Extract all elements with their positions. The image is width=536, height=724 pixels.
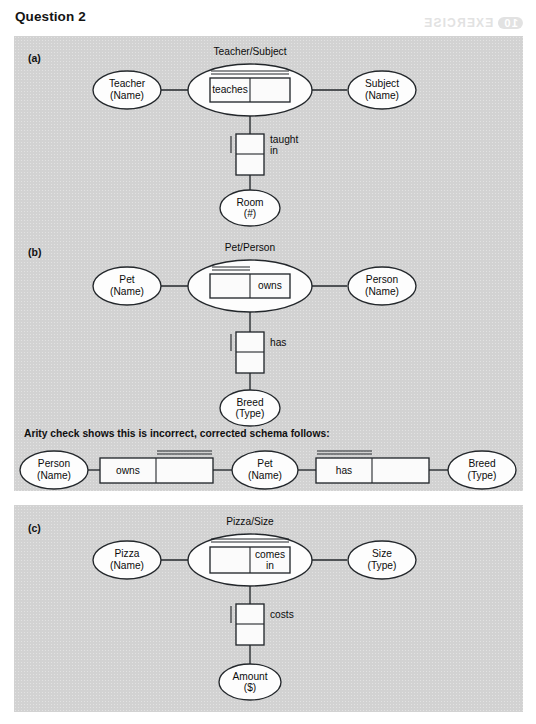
entity-name-b-left: Pet xyxy=(119,274,134,285)
corrected-entity3-name: Breed xyxy=(468,458,496,469)
relationship-label-c-line2: in xyxy=(266,560,274,571)
entity-attr-b-left: (Name) xyxy=(110,286,144,297)
entity-name-a-left: Teacher xyxy=(109,78,146,89)
entity-attr-b-bottom: (Type) xyxy=(236,408,265,419)
relationship-label-a: teaches xyxy=(212,84,248,95)
diagram-title-c: Pizza/Size xyxy=(226,516,274,527)
er-diagram-b: owns Pet/Person Pet (Name) Person (Name)… xyxy=(100,240,420,425)
corrected-entity3-attr: (Type) xyxy=(468,470,497,481)
corrected-entity2-attr: (Name) xyxy=(248,470,282,481)
entity-name-b-right: Person xyxy=(366,274,398,285)
bleed-through-badge: 10 xyxy=(498,17,523,29)
entity-name-a-right: Subject xyxy=(365,78,399,89)
section-label-b: (b) xyxy=(28,246,41,258)
bleed-through-label: EXERCISE xyxy=(423,16,493,30)
entity-attr-c-right: (Type) xyxy=(368,560,397,571)
entity-name-a-bottom: Room xyxy=(236,197,263,208)
diagram-title-b: Pet/Person xyxy=(225,242,275,253)
corrected-entity1-name: Person xyxy=(38,458,70,469)
relationship-label-b: owns xyxy=(258,280,282,291)
entity-name-c-bottom: Amount xyxy=(232,671,267,682)
page-root: Question 2 10EXERCISE Question 2 (a) (b)… xyxy=(0,0,536,724)
entity-attr-a-right: (Name) xyxy=(365,90,399,101)
page-title: Question 2 xyxy=(15,9,86,24)
entity-name-b-bottom: Breed xyxy=(236,397,264,408)
diagram-title-a: Teacher/Subject xyxy=(213,46,286,57)
bleed-through-exercise: 10EXERCISE xyxy=(423,16,523,30)
vertical-relationship-label-a-line1: taught xyxy=(270,134,298,145)
entity-name-c-right: Size xyxy=(372,548,392,559)
corrected-relationship1-label: owns xyxy=(116,465,140,476)
vertical-relationship-label-a-line2: in xyxy=(270,145,278,156)
corrected-relationship2-label: has xyxy=(336,465,352,476)
entity-attr-c-bottom: ($) xyxy=(244,682,256,693)
arity-check-note: Arity check shows this is incorrect, cor… xyxy=(24,428,330,439)
section-label-c: (c) xyxy=(28,522,41,534)
corrected-schema-diagram: Person (Name) owns Pet (Name) has Breed … xyxy=(20,446,520,490)
corrected-entity1-attr: (Name) xyxy=(37,470,71,481)
section-label-a: (a) xyxy=(28,52,41,64)
entity-name-c-left: Pizza xyxy=(115,548,140,559)
entity-attr-c-left: (Name) xyxy=(110,560,144,571)
entity-attr-a-bottom: (#) xyxy=(244,208,256,219)
er-diagram-c: comes in Pizza/Size Pizza (Name) Size (T… xyxy=(100,514,420,704)
vertical-relationship-label-b: has xyxy=(270,337,286,348)
er-diagram-a: teaches Teacher/Subject Teacher (Name) S… xyxy=(100,44,420,224)
corrected-entity2-name: Pet xyxy=(257,458,272,469)
entity-attr-b-right: (Name) xyxy=(365,286,399,297)
relationship-label-c-line1: comes xyxy=(255,549,285,560)
vertical-relationship-label-c: costs xyxy=(270,609,294,620)
entity-attr-a-left: (Name) xyxy=(110,90,144,101)
